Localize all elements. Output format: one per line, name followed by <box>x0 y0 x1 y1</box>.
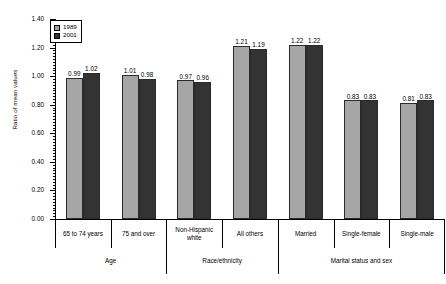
legend-item-2001: 2001 <box>54 32 77 40</box>
bar-1989[interactable]: 1.21 <box>233 46 250 219</box>
bar-value-label: 0.81 <box>402 96 414 102</box>
bar-pair: 1.010.98 <box>122 75 156 219</box>
bar-2001[interactable]: 0.83 <box>361 100 378 219</box>
bar-value-label: 1.22 <box>308 38 320 44</box>
group-label: Marital status and sex <box>278 248 445 274</box>
bar-value-label: 1.19 <box>252 42 264 48</box>
y-tick-label: 0.00 <box>32 216 44 222</box>
bar-value-label: 0.96 <box>197 75 209 81</box>
bar-1989[interactable]: 0.83 <box>344 100 361 219</box>
bar-2001[interactable]: 0.96 <box>194 82 211 219</box>
bar-value-label: 1.21 <box>235 39 247 45</box>
bar-group: 0.970.96 <box>166 19 222 219</box>
plot-area: 0.000.200.400.600.801.001.201.40 0.991.0… <box>55 19 445 220</box>
bar-pair: 1.211.19 <box>233 46 267 219</box>
bar-2001[interactable]: 0.83 <box>417 100 434 219</box>
y-tick-label: 0.40 <box>32 159 44 165</box>
group-label: Race/ethnicity <box>166 248 277 274</box>
bar-1989[interactable]: 1.22 <box>289 45 306 219</box>
bar-value-label: 0.98 <box>141 72 153 78</box>
category-label: All others <box>222 220 278 248</box>
bar-pair: 0.810.83 <box>400 100 434 219</box>
bar-1989[interactable]: 1.01 <box>122 75 139 219</box>
bar-1989[interactable]: 0.97 <box>177 80 194 219</box>
legend-item-1989: 1989 <box>54 24 77 32</box>
category-separator-start <box>55 220 56 248</box>
bar-group: 1.211.19 <box>222 19 278 219</box>
bar-2001[interactable]: 1.19 <box>250 49 267 219</box>
y-tick-label: 0.60 <box>32 130 44 136</box>
bar-pair: 0.970.96 <box>177 80 211 219</box>
bar-1989[interactable]: 0.99 <box>66 78 83 219</box>
category-label: 75 and over <box>111 220 167 248</box>
bar-chart: Ratio of mean values 0.000.200.400.600.8… <box>0 0 446 284</box>
group-label: Age <box>55 248 166 274</box>
bar-2001[interactable]: 1.22 <box>306 45 323 219</box>
bar-group: 1.010.98 <box>111 19 167 219</box>
bar-group: 0.810.83 <box>389 19 445 219</box>
y-tick-label: 1.00 <box>32 73 44 79</box>
legend-label-1989: 1989 <box>63 24 77 30</box>
y-axis-title: Ratio of mean values <box>11 40 18 160</box>
legend-label-2001: 2001 <box>63 32 77 38</box>
bar-pair: 0.830.83 <box>344 100 378 219</box>
group-label-row: AgeRace/ethnicityMarital status and sex <box>55 248 445 274</box>
bar-2001[interactable]: 0.98 <box>139 79 156 219</box>
legend-swatch-icon-1989 <box>54 25 60 31</box>
category-label: 65 to 74 years <box>55 220 111 248</box>
category-label: Single-male <box>389 220 445 248</box>
category-label: Non-Hispanic white <box>166 220 222 248</box>
bar-value-label: 0.97 <box>180 74 192 80</box>
bar-value-label: 1.02 <box>85 66 97 72</box>
bar-value-label: 1.01 <box>124 68 136 74</box>
y-tick-label: 0.80 <box>32 102 44 108</box>
category-label: Single-female <box>334 220 390 248</box>
bar-pair: 0.991.02 <box>66 73 100 219</box>
bar-value-label: 1.22 <box>291 38 303 44</box>
legend: 1989 2001 <box>50 20 82 43</box>
bar-group: 0.991.02 <box>55 19 111 219</box>
y-tick-label: 0.20 <box>32 187 44 193</box>
bar-1989[interactable]: 0.81 <box>400 103 417 219</box>
bars-layer: 0.991.021.010.980.970.961.211.191.221.22… <box>55 19 445 220</box>
bar-group: 1.221.22 <box>278 19 334 219</box>
bar-value-label: 0.83 <box>347 94 359 100</box>
bar-2001[interactable]: 1.02 <box>83 73 100 219</box>
bar-value-label: 0.83 <box>364 94 376 100</box>
axis-label-table: 65 to 74 years75 and overNon-Hispanic wh… <box>55 220 445 274</box>
category-label-row: 65 to 74 years75 and overNon-Hispanic wh… <box>55 220 445 248</box>
y-tick-label: 1.20 <box>32 44 44 50</box>
legend-swatch-icon-2001 <box>54 33 60 39</box>
group-separator-end <box>444 248 445 274</box>
y-tick-label: 1.40 <box>32 16 44 22</box>
bar-pair: 1.221.22 <box>289 45 323 219</box>
category-separator-end <box>444 220 445 248</box>
bar-value-label: 0.99 <box>68 71 80 77</box>
bar-group: 0.830.83 <box>334 19 390 219</box>
category-label: Married <box>278 220 334 248</box>
bar-value-label: 0.83 <box>419 94 431 100</box>
